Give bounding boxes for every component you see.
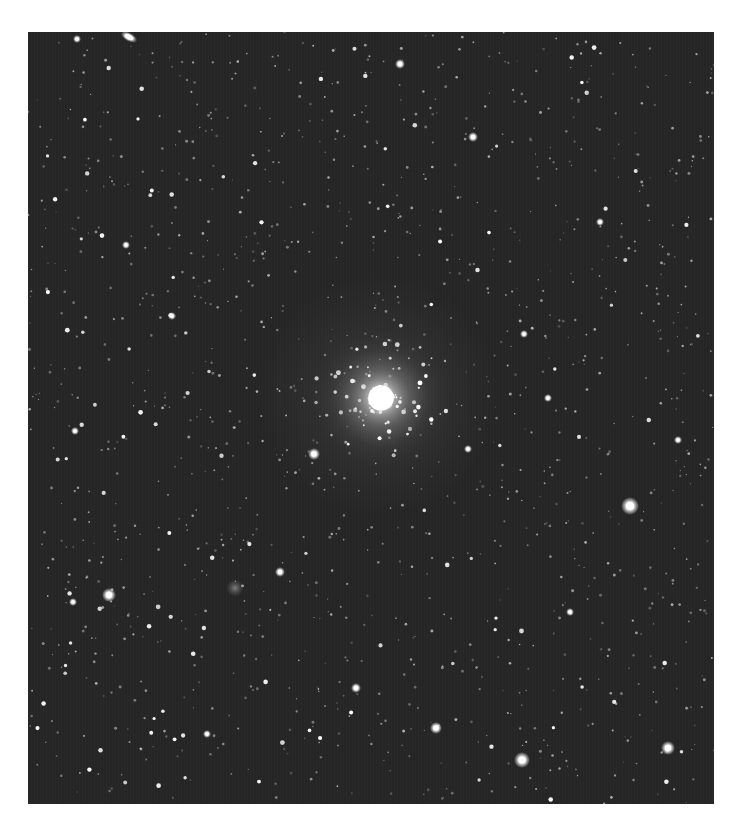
star-field-canvas <box>28 32 714 804</box>
globular-cluster <box>311 328 451 468</box>
star-field-photo <box>28 32 714 804</box>
page <box>0 0 738 830</box>
